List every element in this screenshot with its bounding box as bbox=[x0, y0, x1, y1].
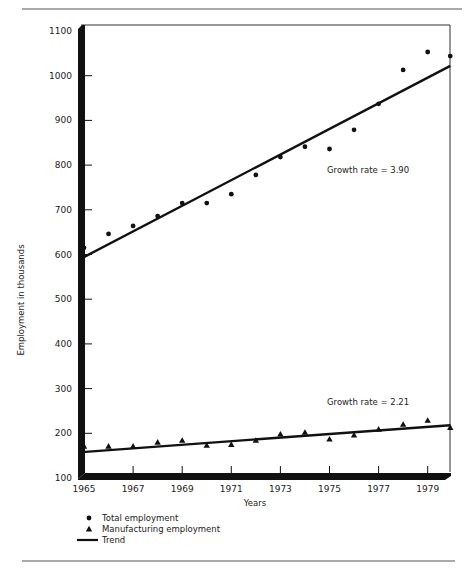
circle-marker bbox=[448, 54, 453, 59]
circle-marker bbox=[278, 155, 283, 160]
circle-marker bbox=[106, 232, 111, 237]
x-axis: 19651967196919711973197519771979 bbox=[73, 466, 451, 494]
circle-marker bbox=[131, 223, 136, 228]
legend-label: Trend bbox=[101, 535, 125, 545]
y-tick-label: 800 bbox=[55, 160, 72, 170]
x-tick-label: 1971 bbox=[220, 484, 243, 494]
circle-marker bbox=[401, 67, 406, 72]
circle-marker bbox=[155, 214, 160, 219]
series-manufacturing-employment bbox=[81, 417, 454, 449]
growth-rate-label: Growth rate = 3.90 bbox=[327, 165, 409, 175]
y-tick-label: 500 bbox=[55, 294, 72, 304]
circle-marker bbox=[180, 201, 185, 206]
legend-label: Manufacturing employment bbox=[102, 524, 221, 534]
x-tick-label: 1973 bbox=[269, 484, 292, 494]
y-axis-bar bbox=[78, 25, 85, 479]
triangle-marker bbox=[179, 437, 185, 443]
y-tick-label: 400 bbox=[55, 339, 72, 349]
y-tick-label: 900 bbox=[55, 115, 72, 125]
x-tick-label: 1969 bbox=[171, 484, 194, 494]
circle-marker bbox=[425, 50, 430, 55]
trend-line bbox=[82, 66, 450, 258]
triangle-marker bbox=[302, 429, 308, 435]
legend: Total employmentManufacturing employment… bbox=[77, 513, 221, 545]
circle-marker bbox=[352, 127, 357, 132]
circle-marker bbox=[253, 173, 258, 178]
circle-marker bbox=[204, 201, 209, 206]
annotations: Growth rate = 3.90Growth rate = 2.21 bbox=[327, 165, 409, 407]
series-total-employment bbox=[82, 50, 453, 251]
circle-marker bbox=[229, 192, 234, 197]
circle-marker bbox=[327, 147, 332, 152]
triangle-marker bbox=[375, 426, 381, 432]
triangle-marker bbox=[105, 443, 111, 449]
y-tick-label: 700 bbox=[55, 205, 72, 215]
circle-marker bbox=[376, 101, 381, 106]
x-tick-label: 1975 bbox=[318, 484, 341, 494]
circle-marker bbox=[303, 144, 308, 149]
employment-chart: 10020030040050060070080090010001100 1965… bbox=[0, 0, 476, 575]
y-tick-label: 1100 bbox=[49, 26, 72, 36]
circle-marker bbox=[87, 516, 92, 521]
x-tick-label: 1965 bbox=[73, 484, 96, 494]
triangle-marker bbox=[277, 431, 283, 437]
y-axis: 10020030040050060070080090010001100 bbox=[49, 25, 92, 483]
triangle-marker bbox=[154, 439, 160, 445]
triangle-marker bbox=[400, 421, 406, 427]
y-tick-label: 200 bbox=[55, 428, 72, 438]
x-axis-bar bbox=[78, 473, 451, 480]
x-tick-label: 1979 bbox=[416, 484, 439, 494]
y-axis-title: Employment in thousands bbox=[16, 244, 26, 356]
legend-label: Total employment bbox=[101, 513, 179, 523]
y-tick-label: 600 bbox=[55, 250, 72, 260]
triangle-marker bbox=[425, 417, 431, 423]
y-tick-label: 100 bbox=[55, 473, 72, 483]
x-tick-label: 1967 bbox=[122, 484, 145, 494]
y-tick-label: 300 bbox=[55, 384, 72, 394]
trend-line bbox=[82, 425, 450, 452]
triangle-marker bbox=[86, 526, 92, 532]
growth-rate-label: Growth rate = 2.21 bbox=[327, 397, 409, 407]
triangle-marker bbox=[326, 436, 332, 442]
triangle-marker bbox=[130, 443, 136, 449]
x-tick-label: 1977 bbox=[367, 484, 390, 494]
x-axis-title: Years bbox=[243, 498, 267, 508]
y-tick-label: 1000 bbox=[49, 71, 72, 81]
